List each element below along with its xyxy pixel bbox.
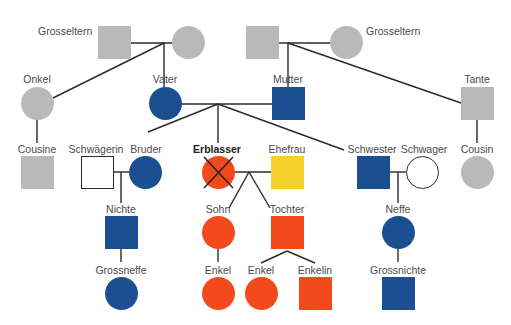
schwester-node xyxy=(357,156,390,189)
enkelin-node xyxy=(299,277,332,310)
label-grosseltern-right: Grosseltern xyxy=(366,25,420,37)
label-cousin: Cousin xyxy=(461,143,494,155)
label-grosseltern-left: Grosseltern xyxy=(38,25,92,37)
nichte-node xyxy=(105,216,138,249)
label-erblasser: Erblasser xyxy=(193,143,241,155)
label-mutter: Mutter xyxy=(273,73,303,85)
label-schwaegerin: Schwägerin xyxy=(69,143,124,155)
label-enkel-2: Enkel xyxy=(248,264,274,276)
label-enkelin: Enkelin xyxy=(298,264,332,276)
label-grossneffe: Grossneffe xyxy=(95,264,146,276)
grossnichte-node xyxy=(382,277,415,310)
neffe-node xyxy=(382,216,415,249)
label-ehefrau: Ehefrau xyxy=(269,143,306,155)
schwaegerin-node xyxy=(81,156,114,189)
sohn-node xyxy=(202,216,235,249)
label-enkel-1: Enkel xyxy=(205,264,231,276)
cousine-node xyxy=(21,156,54,189)
bruder-node xyxy=(129,156,162,189)
label-vater: Vater xyxy=(153,73,177,85)
cousin-node xyxy=(461,156,494,189)
mutter-node xyxy=(272,87,305,120)
label-schwester: Schwester xyxy=(347,143,396,155)
label-tochter: Tochter xyxy=(270,203,304,215)
label-nichte: Nichte xyxy=(106,203,136,215)
schwager-node xyxy=(406,156,439,189)
tochter-node xyxy=(271,216,304,249)
label-bruder: Bruder xyxy=(130,143,162,155)
erblasser-node xyxy=(202,156,235,189)
deceased-cross-icon xyxy=(202,156,235,189)
label-grossnichte: Grossnichte xyxy=(370,264,426,276)
family-tree-diagram: Grosseltern Grosseltern Onkel Vater Mutt… xyxy=(0,0,511,325)
grandfather-left-square xyxy=(98,26,131,59)
vater-node xyxy=(149,87,182,120)
label-cousine: Cousine xyxy=(18,143,57,155)
tante-node xyxy=(461,87,494,120)
grossneffe-node xyxy=(105,277,138,310)
enkel-2-node xyxy=(245,277,278,310)
grandmother-left-circle xyxy=(172,26,205,59)
label-sohn: Sohn xyxy=(206,203,231,215)
label-onkel: Onkel xyxy=(23,73,50,85)
label-neffe: Neffe xyxy=(386,203,411,215)
grandfather-right-square xyxy=(246,26,279,59)
enkel-1-node xyxy=(202,277,235,310)
grandmother-right-circle xyxy=(330,26,363,59)
label-schwager: Schwager xyxy=(401,143,448,155)
onkel-node xyxy=(21,87,54,120)
label-tante: Tante xyxy=(464,73,490,85)
ehefrau-node xyxy=(271,156,304,189)
